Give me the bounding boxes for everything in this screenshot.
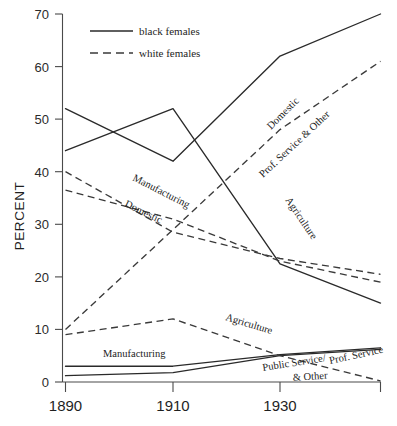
y-tick-label-30: 30 (35, 217, 49, 232)
y-axis: 70 60 50 40 30 20 10 0 PERCENT (12, 7, 63, 390)
x-tick-label-1890: 1890 (49, 397, 82, 414)
label-white-domestic: Domestic (123, 198, 164, 226)
line-chart-svg: 70 60 50 40 30 20 10 0 PERCENT 1890 1910… (0, 0, 397, 426)
label-white-agriculture: Agriculture (224, 311, 274, 336)
legend-label-black-females: black females (139, 25, 200, 37)
y-tick-label-40: 40 (35, 165, 49, 180)
series-black-domestic (66, 14, 381, 161)
legend-label-white-females: white females (139, 47, 200, 59)
y-tick-label-10: 10 (35, 322, 49, 337)
series-black-agriculture (66, 109, 381, 304)
x-axis: 1890 1910 1930 (49, 382, 381, 414)
label-black-agriculture: Agriculture (283, 195, 319, 242)
y-tick-label-70: 70 (35, 7, 49, 22)
y-tick-label-60: 60 (35, 60, 49, 75)
series-white-prof-service-other (66, 61, 381, 329)
label-black-public-service-line2: & Other (292, 370, 328, 383)
y-tick-label-50: 50 (35, 112, 49, 127)
y-axis-title: PERCENT (12, 182, 27, 251)
label-white-prof-service: Prof. Service (328, 344, 384, 366)
series-white-domestic (66, 190, 381, 282)
chart-legend: black females white females (90, 25, 200, 59)
label-black-domestic: Domestic (265, 95, 301, 131)
y-tick-label-20: 20 (35, 270, 49, 285)
chart-container: 70 60 50 40 30 20 10 0 PERCENT 1890 1910… (0, 0, 397, 426)
label-black-manufacturing: Manufacturing (103, 348, 166, 359)
y-tick-label-0: 0 (42, 375, 49, 390)
x-tick-label-1930: 1930 (263, 397, 296, 414)
series-white-manufacturing (66, 172, 381, 275)
x-tick-label-1910: 1910 (156, 397, 189, 414)
